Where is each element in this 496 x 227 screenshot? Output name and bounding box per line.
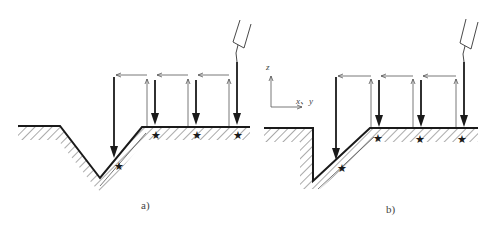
star-icon: ★ (233, 129, 243, 142)
star-icon: ★ (114, 160, 124, 173)
star-icon: ★ (457, 133, 467, 146)
reposition-arrows (338, 74, 456, 78)
subfigure-a: ★ ★ ★ ★ (18, 20, 251, 192)
z-axis-label: z (266, 62, 270, 72)
star-icon: ★ (151, 129, 161, 142)
star-icon: ★ (192, 129, 202, 142)
workpiece-hatching (264, 129, 478, 189)
probe-icon (233, 20, 251, 62)
retract-arrows (145, 79, 231, 126)
star-icon: ★ (415, 133, 425, 146)
caption-b: b) (386, 203, 395, 215)
diagram-canvas: ★ ★ ★ ★ (0, 0, 496, 227)
caption-a: a) (141, 199, 150, 211)
star-icon: ★ (373, 132, 383, 145)
star-icon: ★ (337, 162, 347, 175)
xy-axis-label: x、y (296, 94, 313, 107)
retract-arrows (369, 79, 458, 127)
reposition-arrows (116, 73, 229, 77)
probe-icon (460, 19, 478, 62)
